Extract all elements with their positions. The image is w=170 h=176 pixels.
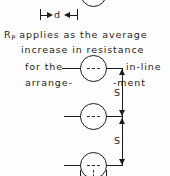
pitch-dimension-line-upper xyxy=(122,68,123,116)
centerline-row-3-left xyxy=(64,165,81,166)
caption-line-3-right: in-line xyxy=(126,62,162,72)
bottom-d-extension-right xyxy=(106,170,107,176)
tube-3-center-mark-h xyxy=(87,165,100,166)
caption-line-1-text: applies as the average xyxy=(19,29,147,40)
tube-top-partial xyxy=(80,0,107,7)
pitch-arrowhead-lower-top xyxy=(119,118,125,124)
rp-symbol: R xyxy=(4,29,12,40)
caption-line-1: RP applies as the average xyxy=(4,30,147,40)
d-arrowhead-left xyxy=(64,12,70,18)
figure-canvas: d RP applies as the average increase in … xyxy=(0,0,170,176)
centerline-row-3-right xyxy=(106,165,123,166)
tube-3-center-mark-v xyxy=(93,170,94,176)
rp-subscript: P xyxy=(12,34,16,42)
tube-1-center-mark-h xyxy=(87,68,100,69)
tube-2-center-mark-h xyxy=(87,116,100,117)
dimension-label-s-lower: S xyxy=(114,136,120,146)
caption-line-2: increase in resistance xyxy=(21,45,144,55)
pitch-arrowhead-lower-bottom xyxy=(119,159,125,165)
pitch-arrowhead-upper-top xyxy=(119,69,125,75)
dimension-label-s-upper: S xyxy=(114,88,120,98)
bottom-d-extension-left xyxy=(80,170,81,176)
caption-line-3-left: for the xyxy=(25,62,63,72)
centerline-row-2-right xyxy=(106,116,123,117)
caption-line-4-left: arrange- xyxy=(25,78,73,88)
centerline-row-1-left xyxy=(62,68,81,69)
dimension-label-d: d xyxy=(54,10,60,20)
d-arrowhead-right xyxy=(47,12,53,18)
centerline-row-2-left xyxy=(64,116,81,117)
